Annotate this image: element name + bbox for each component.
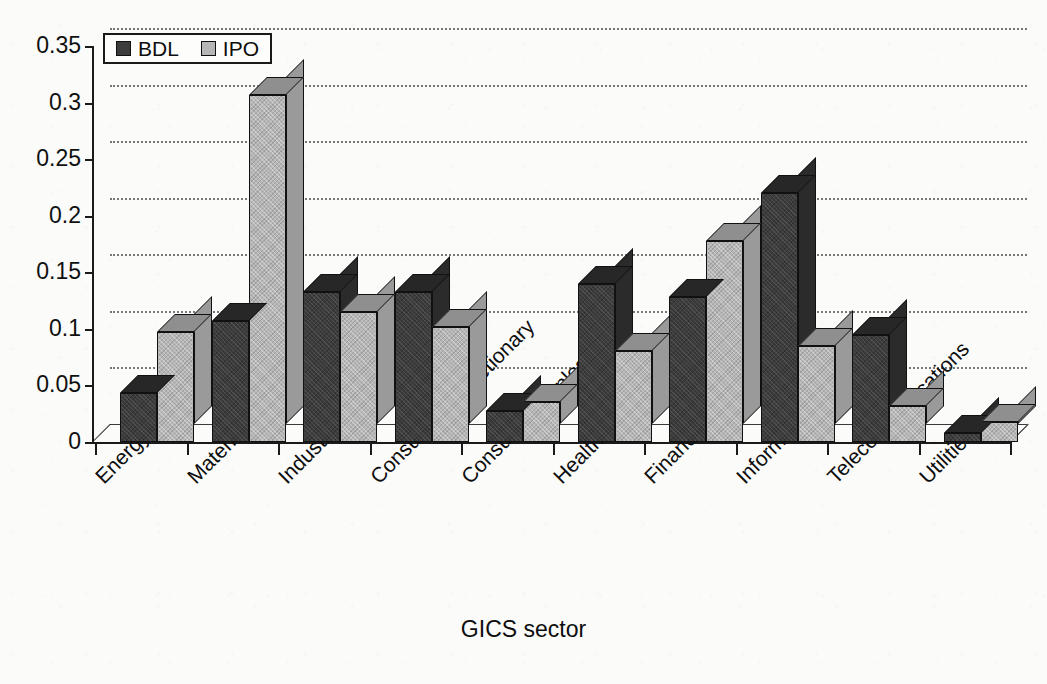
bar-bdl-utilities-front [944,433,981,442]
bar-ipo-information-technology-front [798,346,835,442]
y-tick-0_15 [85,272,94,274]
gridline-0_35 [110,28,1027,30]
y-tick-0_2 [85,216,94,218]
y-axis-line [92,46,94,442]
bar-bdl-industrials-front [303,292,340,442]
chart-legend: BDL IPO [103,33,272,64]
x-tick-10 [1010,442,1012,455]
x-tick-2 [278,442,280,455]
bar-ipo-health-care-side [652,315,670,424]
gridline-0_3 [110,85,1027,87]
y-tick-label-0_05: 0.05 [6,373,81,396]
bar-ipo-materials-side [286,59,304,424]
legend-label-bdl: BDL [138,38,179,59]
x-axis-title: GICS sector [0,618,1047,641]
x-tick-7 [736,442,738,455]
y-tick-label-0: 0 [6,430,81,453]
bar-bdl-health-care-front [578,284,615,442]
y-tick-0_1 [85,329,94,331]
y-tick-label-0_2: 0.2 [6,204,81,227]
bar-bdl-consumer-staples-front [486,411,523,442]
bar-ipo-information-technology-side [835,310,853,424]
legend-swatch-ipo-icon [201,41,216,56]
y-tick-0_05 [85,385,94,387]
x-tick-8 [827,442,829,455]
x-tick-4 [461,442,463,455]
legend-item-bdl: BDL [116,38,179,59]
bar-bdl-consumer-discretionary-front [395,292,432,442]
y-tick-label-0_25: 0.25 [6,147,81,170]
bar-chart-figure: 00.050.10.150.20.250.30.35 EnergyMateria… [0,0,1047,684]
legend-label-ipo: IPO [223,38,259,59]
y-tick-label-0_1: 0.1 [6,317,81,340]
bar-bdl-financials-front [669,297,706,442]
y-tick-0_3 [85,103,94,105]
bar-ipo-telecommunications-front [889,406,926,442]
bar-bdl-information-technology-front [761,193,798,442]
legend-item-ipo: IPO [201,38,259,59]
bar-bdl-telecommunications-front [852,335,889,442]
x-tick-0 [95,442,97,455]
y-tick-label-0_35: 0.35 [6,34,81,57]
bar-ipo-consumer-discretionary-front [432,327,469,442]
y-tick-0_25 [85,159,94,161]
x-tick-5 [553,442,555,455]
y-tick-0_35 [85,46,94,48]
bar-ipo-health-care-front [615,351,652,442]
x-tick-1 [187,442,189,455]
x-tick-9 [919,442,921,455]
bar-ipo-consumer-staples-front [523,402,560,442]
y-tick-label-0_3: 0.3 [6,91,81,114]
legend-swatch-bdl-icon [116,41,131,56]
bar-ipo-materials-front [249,95,286,442]
floor-left-diagonal [92,424,111,443]
bar-bdl-energy-front [120,393,157,442]
x-tick-6 [644,442,646,455]
bar-ipo-financials-front [706,241,743,442]
bar-ipo-industrials-front [340,312,377,442]
x-tick-3 [370,442,372,455]
y-tick-label-0_15: 0.15 [6,260,81,283]
bar-bdl-materials-front [212,321,249,442]
